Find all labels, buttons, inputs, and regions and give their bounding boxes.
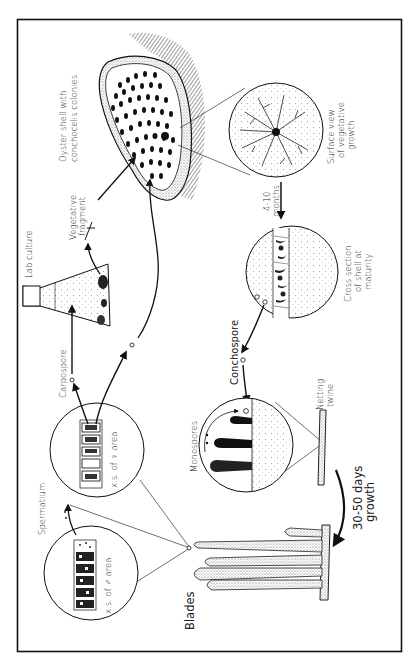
label-netting-twine: Netting twine [315,376,335,410]
label-cross-section: Cross section of shell at maturity [343,243,373,302]
arrow-conchospore-settle [243,365,247,402]
arrow-fragment-to-shell [98,158,135,200]
arrow-conchospore-release [242,305,264,352]
oyster-shell [99,33,205,200]
label-carpospore: Carpospore [58,349,68,398]
label-conchospore: Conchospore [229,320,240,385]
label-spermatium: Spermatium [37,483,47,535]
arrow-30-50-days-growth [334,470,344,545]
monospores-circle [199,398,293,492]
label-blades: Blades [183,591,197,630]
lab-culture-flask [23,253,110,326]
netting-twine [318,410,326,485]
label-4-10-months: 4-10 months [262,185,281,217]
label-vegetative-fragment: Vegetative fragment [68,192,87,240]
label-oyster-shell: Oyster shell with conchocelis colonies [58,75,79,162]
blades [194,525,330,600]
label-growth-period: 30-50 days growth [351,462,377,530]
label-xs-female: x.s. of ♀ area [109,432,119,489]
label-monospores: Monospores [189,421,199,472]
xs-male-circle [44,526,138,620]
label-surface-view: Surface view of vegetative growth [326,99,356,164]
label-xs-male: x.s. of ♂ area [103,558,113,615]
surface-view-circle [229,83,323,177]
porphyra-life-cycle-diagram: Oyster shell with conchocelis colonies S… [0,0,415,665]
cross-section-circle [246,226,338,318]
label-lab-culture: Lab culture [24,230,34,278]
